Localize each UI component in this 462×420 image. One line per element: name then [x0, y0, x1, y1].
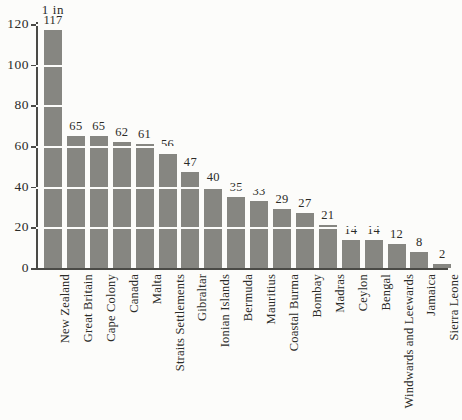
- bar-value-label: 56: [161, 137, 174, 152]
- bar-slot: 117: [44, 24, 62, 268]
- bar-value-label: 14: [367, 223, 380, 238]
- y-axis-tick: [31, 268, 36, 270]
- x-axis-category-label: Malta: [150, 274, 165, 304]
- y-axis-tick-label: 80: [15, 97, 30, 113]
- bar-slot: 33: [250, 24, 268, 268]
- x-axis-line: [36, 268, 448, 270]
- bar-slot: 56: [159, 24, 177, 268]
- bar: [319, 225, 337, 268]
- x-axis-category-label: Coastal Burma: [287, 274, 302, 351]
- bar-slot: 14: [365, 24, 383, 268]
- bar-value-label: 2: [439, 247, 446, 262]
- x-axis-category-label: Bermuda: [241, 274, 256, 321]
- y-axis-tick-label: 60: [15, 138, 30, 154]
- bar-series: 11765656261564740353329272114141282: [36, 24, 448, 268]
- bar-slot: 2: [433, 24, 451, 268]
- x-axis-category-label: Mauritius: [264, 274, 279, 324]
- bar-slot: 8: [410, 24, 428, 268]
- y-axis-tick-label: 120: [7, 16, 29, 32]
- y-axis-tick-label: 100: [7, 57, 29, 73]
- bar: [181, 172, 199, 268]
- plot-area: 020406080100120 117656562615647403533292…: [36, 24, 448, 268]
- bar: [433, 264, 451, 268]
- x-axis-category-label: Canada: [127, 274, 142, 313]
- bar-value-label: 65: [69, 119, 82, 134]
- x-axis-category-label: Sierra Leone: [447, 274, 462, 341]
- bar: [136, 144, 154, 268]
- x-axis-category-label: Straits Settlements: [173, 274, 188, 371]
- y-axis-tick-label: 40: [15, 179, 30, 195]
- bar: [342, 240, 360, 268]
- bar: [388, 244, 406, 268]
- bar-slot: 35: [227, 24, 245, 268]
- bar-slot: 47: [181, 24, 199, 268]
- bar: [44, 30, 62, 268]
- bar-value-label: 12: [390, 227, 403, 242]
- bar-value-label: 65: [92, 119, 105, 134]
- y-axis-tick-label: 20: [15, 219, 30, 235]
- bar-slot: 40: [204, 24, 222, 268]
- bar: [113, 142, 131, 268]
- bar: [204, 187, 222, 268]
- bar-slot: 14: [342, 24, 360, 268]
- bar-value-label: 14: [344, 223, 357, 238]
- bar-value-label: 40: [207, 170, 220, 185]
- bar-value-label: 35: [230, 180, 243, 195]
- x-axis-category-label: Jamaica: [424, 274, 439, 316]
- x-axis-category-label: Great Britain: [81, 274, 96, 342]
- bar: [227, 197, 245, 268]
- bar-value-label: 62: [115, 125, 128, 140]
- bar: [159, 154, 177, 268]
- x-axis-category-label: Cape Colony: [104, 274, 119, 342]
- x-axis-category-label: Windwards and Leewards: [402, 274, 417, 408]
- bar-value-label: 27: [298, 196, 311, 211]
- bar-value-label: 117: [43, 13, 62, 28]
- bar-slot: 61: [136, 24, 154, 268]
- bar: [90, 136, 108, 268]
- x-axis-category-label: Bombay: [310, 274, 325, 318]
- bar-value-label: 47: [184, 155, 197, 170]
- bar-value-label: 29: [275, 192, 288, 207]
- bar-slot: 12: [388, 24, 406, 268]
- x-axis-category-label: Ionian Islands: [218, 274, 233, 347]
- x-axis-category-label: Bengal: [379, 274, 394, 311]
- bar-slot: 65: [90, 24, 108, 268]
- bar-value-label: 61: [138, 127, 151, 142]
- x-axis-category-label: Ceylon: [356, 274, 371, 311]
- x-axis-category-label: Gibraltar: [195, 274, 210, 321]
- bar: [296, 213, 314, 268]
- bar-slot: 27: [296, 24, 314, 268]
- bar-slot: 21: [319, 24, 337, 268]
- bar: [250, 201, 268, 268]
- bar-value-label: 8: [416, 235, 423, 250]
- bar: [67, 136, 85, 268]
- x-axis-category-label: New Zealand: [58, 274, 73, 343]
- bar-slot: 65: [67, 24, 85, 268]
- bar-slot: 62: [113, 24, 131, 268]
- bar: [273, 209, 291, 268]
- x-axis-category-label: Madras: [333, 274, 348, 313]
- bar: [410, 252, 428, 268]
- bar-slot: 29: [273, 24, 291, 268]
- y-axis-tick-label: 0: [22, 260, 29, 276]
- bar-value-label: 21: [321, 208, 334, 223]
- bar: [365, 240, 383, 268]
- bar-value-label: 33: [253, 184, 266, 199]
